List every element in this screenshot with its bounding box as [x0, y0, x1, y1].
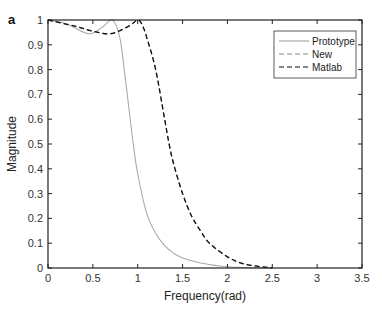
series-line-prototype	[48, 20, 272, 268]
chart: a 00.511.522.533.500.10.20.30.40.50.60.7…	[0, 0, 382, 311]
x-tick-label: 0	[45, 272, 51, 284]
x-tick-label: 2.5	[265, 272, 280, 284]
y-tick-label: 0.2	[28, 212, 43, 224]
y-tick-label: 0	[37, 262, 43, 274]
legend: PrototypeNewMatlab	[274, 31, 356, 78]
legend-label-new: New	[312, 49, 333, 60]
y-tick-label: 0.4	[28, 163, 43, 175]
series-line-new	[48, 20, 272, 268]
legend-label-matlab: Matlab	[312, 62, 342, 73]
x-tick-label: 0.5	[85, 272, 100, 284]
x-tick-label: 3	[314, 272, 320, 284]
y-axis-label: Magnitude	[5, 116, 19, 172]
x-tick-label: 1	[135, 272, 141, 284]
y-tick-label: 0.1	[28, 237, 43, 249]
panel-label: a	[8, 12, 16, 27]
y-tick-label: 0.5	[28, 138, 43, 150]
y-tick-label: 0.9	[28, 39, 43, 51]
y-tick-label: 0.8	[28, 64, 43, 76]
plot-lines	[48, 20, 272, 268]
x-tick-label: 3.5	[354, 272, 369, 284]
series-line-matlab	[48, 20, 272, 268]
y-tick-label: 1	[37, 14, 43, 26]
x-axis-label: Frequency(rad)	[164, 289, 246, 303]
x-tick-label: 1.5	[175, 272, 190, 284]
x-tick-label: 2	[224, 272, 230, 284]
y-tick-label: 0.3	[28, 188, 43, 200]
y-tick-label: 0.7	[28, 88, 43, 100]
y-tick-label: 0.6	[28, 113, 43, 125]
legend-label-prototype: Prototype	[312, 36, 355, 47]
